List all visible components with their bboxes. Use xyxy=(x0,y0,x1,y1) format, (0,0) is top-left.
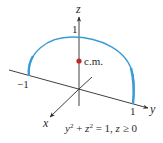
semicircle-arc-left-end xyxy=(29,56,33,76)
semicircle-center-of-mass-figure: z 1 c.m. −1 1 y x y2 + z2 = 1, z ≥ 0 xyxy=(0,0,163,143)
y-tick-one: 1 xyxy=(130,106,136,117)
eq-plus: + xyxy=(73,122,85,134)
x-axis xyxy=(50,89,79,117)
x-axis-label: x xyxy=(43,117,48,129)
x-axis-back xyxy=(79,77,92,89)
center-of-mass-label: c.m. xyxy=(84,56,103,67)
surface-equation: y2 + z2 = 1, z ≥ 0 xyxy=(65,123,137,134)
z-axis-label: z xyxy=(76,3,81,15)
eq-rest: = 1, xyxy=(93,122,116,134)
center-of-mass-dot xyxy=(76,58,81,63)
z-tick-one: 1 xyxy=(72,24,78,35)
semicircle-arc-right-end xyxy=(131,68,134,104)
y-axis-label: y xyxy=(150,103,155,115)
eq-cond: ≥ 0 xyxy=(120,122,137,134)
semicircle-arc xyxy=(29,37,134,104)
y-tick-neg-one: −1 xyxy=(17,79,29,90)
